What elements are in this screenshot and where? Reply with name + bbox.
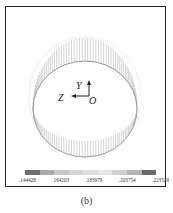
colorbar-label: .183978 bbox=[86, 177, 103, 183]
figure-caption: (b) bbox=[0, 195, 173, 206]
colorbar-segment bbox=[83, 170, 98, 175]
colorbar-segment bbox=[98, 170, 113, 175]
z-axis-label: Z bbox=[58, 92, 64, 103]
colorbar-segment bbox=[25, 170, 40, 175]
colorbar-segment bbox=[40, 170, 55, 175]
colorbar bbox=[25, 170, 156, 175]
y-axis-label: Y bbox=[76, 80, 82, 91]
colorbar-segment bbox=[54, 170, 69, 175]
origin-label: O bbox=[89, 95, 96, 106]
colorbar-labels: .144428 .164203 .183978 .203754 .223529 bbox=[19, 177, 169, 183]
colorbar-segment bbox=[112, 170, 127, 175]
colorbar-segment bbox=[69, 170, 84, 175]
colorbar-label: .164203 bbox=[52, 177, 69, 183]
colorbar-label: .223529 bbox=[152, 177, 169, 183]
colorbar-label: .144428 bbox=[19, 177, 36, 183]
colorbar-label: .203754 bbox=[119, 177, 136, 183]
colorbar-segment bbox=[142, 170, 157, 175]
colorbar-segment bbox=[127, 170, 142, 175]
